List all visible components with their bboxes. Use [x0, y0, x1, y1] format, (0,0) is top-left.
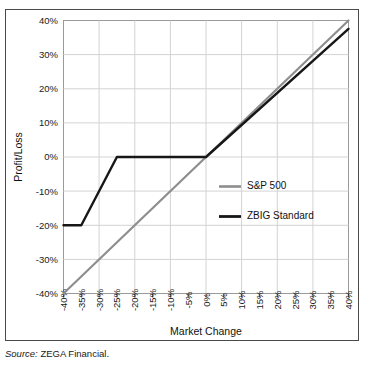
- x-tick-label: -35%: [76, 288, 87, 311]
- figure-title-text: Exhibit: ZBIG Standard vs. S&P 500: [6, 0, 209, 3]
- chart-container: 40% 30% 20% 10% 0% -10% -20% -30% -40% P…: [5, 9, 359, 341]
- y-tick-label: 20%: [39, 83, 59, 94]
- x-tick-label: 20%: [272, 290, 283, 310]
- y-tick-label: -40%: [36, 288, 59, 299]
- x-axis-title: Market Change: [170, 325, 242, 337]
- x-tick-label: 5%: [218, 293, 229, 307]
- x-tick-label: -25%: [111, 288, 122, 311]
- x-tick-label: -10%: [165, 288, 176, 311]
- x-tick-label: 35%: [325, 290, 336, 310]
- y-tick-label: 30%: [39, 49, 59, 60]
- y-tick-label: -10%: [36, 186, 59, 197]
- y-tick-label: 10%: [39, 117, 59, 128]
- x-tick-label: -5%: [183, 291, 194, 308]
- x-tick-label: -30%: [94, 288, 105, 311]
- y-tick-label: -20%: [36, 220, 59, 231]
- x-tick-label: -40%: [58, 288, 69, 311]
- source-label: Source:: [5, 348, 38, 359]
- x-tick-label: 10%: [236, 290, 247, 310]
- source-note: Source: ZEGA Financial.: [5, 348, 109, 359]
- source-value: ZEGA Financial.: [40, 348, 109, 359]
- x-tick-label: 25%: [290, 290, 301, 310]
- y-axis-title: Profit/Loss: [12, 132, 24, 182]
- legend-label-sp500: S&P 500: [247, 180, 287, 191]
- y-tick-label: 40%: [39, 15, 59, 26]
- x-tick-label: 40%: [343, 290, 354, 310]
- profit-loss-line-chart: 40% 30% 20% 10% 0% -10% -20% -30% -40% P…: [6, 10, 358, 340]
- figure-title-cropped: Exhibit: ZBIG Standard vs. S&P 500: [0, 0, 366, 7]
- x-tick-label: 15%: [254, 290, 265, 310]
- x-tick-label: 0%: [201, 293, 212, 307]
- x-tick-label: -15%: [147, 288, 158, 311]
- y-tick-label: -30%: [36, 254, 59, 265]
- y-axis-tick-labels: 40% 30% 20% 10% 0% -10% -20% -30% -40%: [36, 15, 59, 299]
- exhibit-figure: Exhibit: ZBIG Standard vs. S&P 500: [0, 0, 366, 368]
- y-tick-label: 0%: [44, 151, 58, 162]
- x-tick-label: 30%: [307, 290, 318, 310]
- x-tick-label: -20%: [129, 288, 140, 311]
- legend-label-zbig: ZBIG Standard: [247, 210, 314, 221]
